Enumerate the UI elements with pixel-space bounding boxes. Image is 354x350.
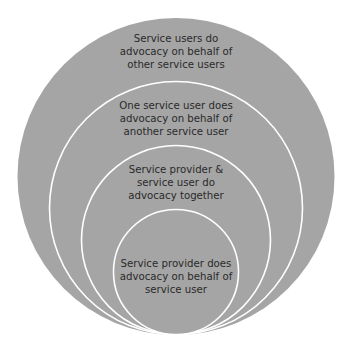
label-third-line-3: advocacy together	[128, 190, 224, 201]
label-second: One service user does advocacy on behalf…	[119, 100, 232, 137]
label-second-line-1: One service user does	[119, 100, 232, 111]
label-third-line-2: service user do	[137, 177, 215, 188]
label-inner-line-1: Service provider does	[121, 258, 232, 269]
label-inner-line-2: advocacy on behalf of	[120, 271, 233, 282]
label-second-line-3: another service user	[123, 126, 229, 137]
label-outer: Service users do advocacy on behalf of o…	[120, 33, 233, 70]
advocacy-nested-circles-diagram: Service users do advocacy on behalf of o…	[0, 0, 354, 350]
label-outer-line-3: other service users	[127, 59, 225, 70]
label-third: Service provider & service user do advoc…	[128, 164, 224, 201]
label-third-line-1: Service provider &	[129, 164, 224, 175]
label-outer-line-1: Service users do	[134, 33, 218, 44]
label-second-line-2: advocacy on behalf of	[120, 113, 233, 124]
label-inner-line-3: service user	[145, 284, 208, 295]
label-outer-line-2: advocacy on behalf of	[120, 46, 233, 57]
